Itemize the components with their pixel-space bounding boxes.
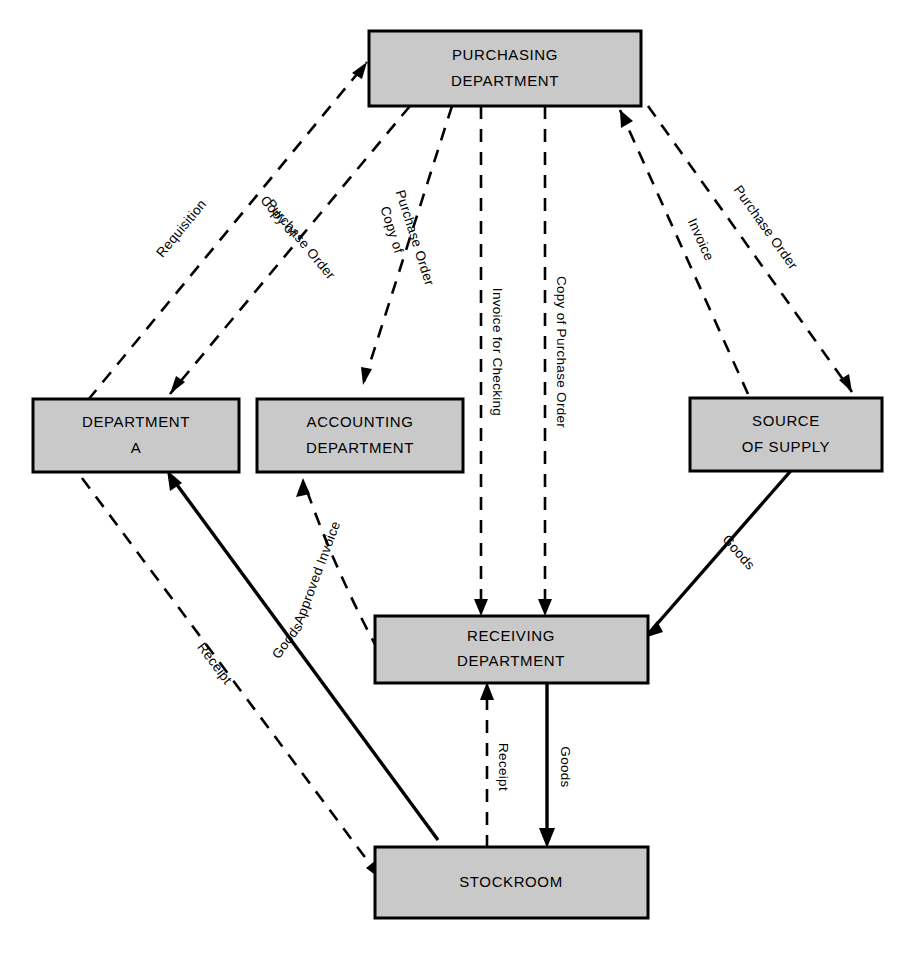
edge-label-receipt-dept-a: Receipt [194, 640, 235, 687]
node-purchasing-department-label-line1: PURCHASING [452, 46, 558, 63]
arrowhead-icon [474, 599, 488, 616]
arrowhead-icon [361, 367, 372, 385]
arrowhead-icon [296, 478, 310, 497]
flowchart-diagram: Requisition Copy of Purchase Order Copy … [0, 0, 917, 955]
arrowhead-icon [539, 828, 555, 848]
edge-label-invoice-for-checking: Invoice for Checking [490, 288, 505, 416]
edge-copy-po-receiving: Copy of Purchase Order [538, 106, 569, 616]
node-receiving-department[interactable]: RECEIVING DEPARTMENT [375, 616, 648, 683]
edge-goods-receiving-to-stockroom: Goods [539, 682, 573, 848]
node-stockroom-label-line1: STOCKROOM [459, 873, 562, 890]
edge-label-goods-source: Goods [719, 532, 757, 573]
edge-label-copy-of-purchase-order-3: Copy of Purchase Order [554, 276, 569, 428]
arrowhead-icon [538, 599, 552, 616]
node-receiving-department-label-line2: DEPARTMENT [457, 652, 565, 669]
edge-label-approved-invoice: Approved Invoice [291, 519, 343, 626]
edge-label-goods-dept-a: Goods [269, 619, 306, 661]
edge-label-requisition: Requisition [153, 197, 209, 261]
node-source-of-supply-box[interactable] [690, 398, 882, 471]
node-department-a-label-line1: DEPARTMENT [82, 413, 190, 430]
node-accounting-department-label-line1: ACCOUNTING [307, 413, 414, 430]
node-department-a-box[interactable] [33, 399, 239, 472]
edge-receipt-stockroom-to-receiving: Receipt [480, 682, 511, 848]
edge-label-purchase-order: Purchase Order [731, 183, 801, 273]
node-accounting-department-label-line2: DEPARTMENT [306, 439, 414, 456]
edge-requisition-line [88, 62, 367, 400]
node-source-of-supply[interactable]: SOURCE OF SUPPLY [690, 398, 882, 471]
node-purchasing-department-label-line2: DEPARTMENT [451, 72, 559, 89]
node-source-of-supply-label-line1: SOURCE [752, 412, 820, 429]
node-purchasing-department[interactable]: PURCHASING DEPARTMENT [369, 31, 641, 106]
edge-label-invoice: Invoice [685, 216, 717, 263]
edge-invoice-for-checking: Invoice for Checking [474, 106, 505, 616]
edge-goods-source-to-receiving: Goods [644, 466, 795, 638]
node-department-a-label-line2: A [131, 439, 142, 456]
edge-invoice-line [620, 110, 748, 394]
node-accounting-department[interactable]: ACCOUNTING DEPARTMENT [257, 399, 463, 472]
node-receiving-department-label-line1: RECEIVING [467, 627, 555, 644]
edge-approved-invoice: Approved Invoice [291, 478, 378, 650]
flowchart-canvas: Requisition Copy of Purchase Order Copy … [0, 0, 917, 955]
edge-purchase-order: Purchase Order [648, 106, 852, 392]
edge-label-goods-stockroom: Goods [558, 746, 573, 787]
edge-invoice: Invoice [620, 110, 748, 394]
node-source-of-supply-label-line2: OF SUPPLY [742, 438, 830, 455]
arrowhead-icon [620, 110, 633, 128]
edge-requisition: Requisition [88, 62, 367, 400]
node-stockroom[interactable]: STOCKROOM [375, 847, 648, 918]
node-accounting-department-box[interactable] [257, 399, 463, 472]
edge-label-receipt-receiving: Receipt [496, 743, 511, 791]
edge-purchase-order-line [648, 106, 852, 392]
arrowhead-icon [480, 682, 494, 700]
edge-goods-source-line [650, 466, 795, 632]
node-purchasing-department-box[interactable] [369, 31, 641, 106]
node-department-a[interactable]: DEPARTMENT A [33, 399, 239, 472]
